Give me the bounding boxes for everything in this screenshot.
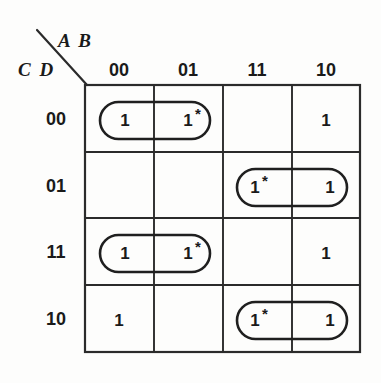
- cell-r0c0: 1: [120, 111, 129, 130]
- karnaugh-map-canvas: A B C D 00 01 11 10 00 01 11 10 1 1 * 1: [0, 0, 381, 383]
- column-header-3: 10: [316, 60, 336, 80]
- cell-r3c0: 1: [114, 311, 123, 330]
- axis-label-cd: C D: [18, 59, 55, 80]
- cell-r2c0: 1: [120, 244, 129, 263]
- axis-label-ab: A B: [57, 30, 93, 51]
- column-header-0: 00: [109, 60, 129, 80]
- cell-r2c1: 1: [183, 244, 192, 263]
- row-header-2: 11: [46, 242, 65, 262]
- cell-r3c3: 1: [325, 311, 334, 330]
- cell-r0c1: 1: [183, 111, 192, 130]
- row-header-1: 01: [46, 176, 66, 196]
- cell-r0c3: 1: [321, 111, 330, 130]
- cell-r1c3: 1: [325, 178, 334, 197]
- cell-r2c3: 1: [321, 244, 330, 263]
- group-oval-row11-cols00-01: [100, 235, 210, 272]
- cell-r1c2-star: *: [262, 172, 268, 189]
- group-oval-row00-cols00-01: [100, 102, 210, 139]
- row-header-0: 00: [46, 109, 66, 129]
- column-header-2: 11: [247, 60, 266, 80]
- cell-r2c1-star: *: [195, 238, 201, 255]
- cell-r0c1-star: *: [195, 105, 201, 122]
- row-header-3: 10: [46, 309, 66, 329]
- cell-r1c2: 1: [250, 178, 259, 197]
- column-header-1: 01: [178, 60, 198, 80]
- cell-r3c2: 1: [250, 311, 259, 330]
- karnaugh-map-figure: A B C D 00 01 11 10 00 01 11 10 1 1 * 1: [0, 0, 381, 383]
- cell-r3c2-star: *: [262, 305, 268, 322]
